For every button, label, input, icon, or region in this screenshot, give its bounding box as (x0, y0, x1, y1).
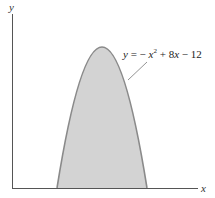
equation-label: y = − x2 + 8x − 12 (122, 47, 202, 60)
y-axis-label: y (8, 1, 14, 13)
eq-plus8: + 8 (157, 48, 175, 60)
chart: y x y = − x2 + 8x − 12 (0, 0, 215, 198)
eq-minus12: − 12 (179, 48, 202, 60)
annotation-leader-line (128, 62, 147, 80)
x-axis-label: x (200, 182, 206, 194)
eq-equals-minus: = − (128, 48, 149, 60)
